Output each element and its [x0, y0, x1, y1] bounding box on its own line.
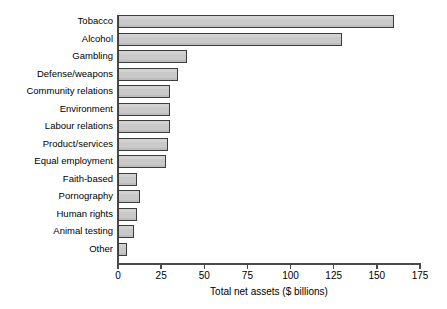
bar-row: Alcohol [0, 32, 447, 49]
category-label: Defense/weapons [0, 67, 117, 80]
bar [118, 155, 166, 168]
bar-row: Other [0, 242, 447, 259]
x-axis-tick-label: 75 [227, 270, 267, 282]
category-label: Labour relations [0, 119, 117, 132]
x-axis-tick-label: 25 [141, 270, 181, 282]
bar-row: Product/services [0, 137, 447, 154]
x-axis-tick-mark [117, 264, 119, 269]
bar [118, 138, 168, 151]
bar [118, 103, 170, 116]
x-axis-tick-label: 50 [184, 270, 224, 282]
bar-row: Community relations [0, 84, 447, 101]
category-label: Tobacco [0, 14, 117, 27]
x-axis-title: Total net assets ($ billions) [117, 286, 421, 297]
category-label: Product/services [0, 137, 117, 150]
x-axis-tick-mark [160, 264, 162, 269]
category-label: Other [0, 242, 117, 255]
x-axis-tick-mark [204, 264, 206, 269]
category-label: Equal employment [0, 154, 117, 167]
category-label: Faith-based [0, 172, 117, 185]
category-label: Environment [0, 102, 117, 115]
bar [118, 33, 342, 46]
bar [118, 120, 170, 133]
bar-row: Tobacco [0, 14, 447, 31]
bar [118, 190, 140, 203]
category-label: Animal testing [0, 224, 117, 237]
bar-chart-figure: TobaccoAlcoholGamblingDefense/weaponsCom… [0, 0, 447, 309]
category-label: Human rights [0, 207, 117, 220]
x-axis-tick-mark [247, 264, 249, 269]
x-axis-tick-label: 175 [400, 270, 440, 282]
bar [118, 50, 187, 63]
bar [118, 173, 137, 186]
x-axis-tick-label: 125 [314, 270, 354, 282]
bar [118, 225, 134, 238]
bar-row: Equal employment [0, 154, 447, 171]
category-label: Alcohol [0, 32, 117, 45]
bar-row: Animal testing [0, 224, 447, 241]
bar-row: Human rights [0, 207, 447, 224]
x-axis-tick-label: 0 [98, 270, 138, 282]
bar-row: Faith-based [0, 172, 447, 189]
plot-area: TobaccoAlcoholGamblingDefense/weaponsCom… [0, 0, 447, 309]
bar-row: Pornography [0, 189, 447, 206]
bar [118, 85, 170, 98]
bar [118, 68, 178, 81]
bar [118, 243, 127, 256]
bar-row: Gambling [0, 49, 447, 66]
bar [118, 15, 394, 28]
bar-row: Defense/weapons [0, 67, 447, 84]
category-label: Gambling [0, 49, 117, 62]
bar [118, 208, 137, 221]
x-axis-tick-mark [376, 264, 378, 269]
x-axis-tick-mark [333, 264, 335, 269]
x-axis-tick-label: 150 [357, 270, 397, 282]
bar-row: Environment [0, 102, 447, 119]
category-label: Community relations [0, 84, 117, 97]
x-axis-tick-label: 100 [271, 270, 311, 282]
bar-row: Labour relations [0, 119, 447, 136]
x-axis-tick-mark [419, 264, 421, 269]
x-axis-tick-mark [290, 264, 292, 269]
category-label: Pornography [0, 189, 117, 202]
